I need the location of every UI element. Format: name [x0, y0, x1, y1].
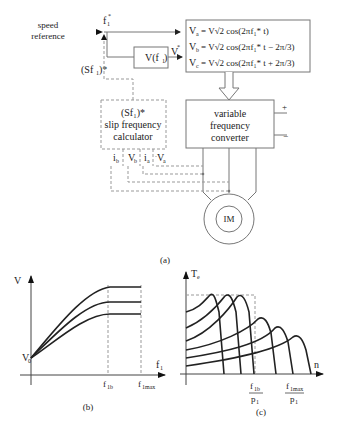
caption-b: (b) — [83, 402, 94, 412]
svg-text:= V√2 cos(2πf₁* t + 2π/3): = V√2 cos(2πf₁* t + 2π/3) — [201, 58, 294, 68]
svg-text:*: * — [177, 44, 180, 50]
svg-text:b: b — [134, 158, 137, 164]
dc-minus-label: − — [283, 131, 288, 141]
svg-text:1b: 1b — [254, 386, 260, 392]
b-y-label: V — [14, 275, 22, 286]
x-axis-arrow-icon — [316, 371, 324, 377]
b-curve-middle — [31, 302, 141, 358]
svg-text:calculator: calculator — [113, 131, 153, 142]
svg-text:= V√2 cos(2πf₁* t): = V√2 cos(2πf₁* t) — [201, 26, 269, 36]
svg-text:1b: 1b — [107, 384, 113, 390]
feedback-arrow-icon — [101, 34, 107, 40]
hollow-down-arrow-icon — [219, 72, 239, 100]
x-axis-arrow-icon — [158, 372, 166, 378]
svg-text:a: a — [196, 31, 199, 37]
equation-a: V a = V√2 cos(2πf₁* t) — [189, 25, 269, 37]
chart-b-voltage-frequency: V V 0 f 1 f 1b f 1max (b) — [14, 275, 166, 412]
svg-text:0: 0 — [28, 358, 31, 364]
equation-c: V c = V√2 cos(2πf₁* t + 2π/3) — [189, 57, 294, 69]
caption-a: (a) — [160, 255, 170, 265]
chart-c-torque-speed: T e n f 1b p 1 f 1max p 1 (c) — [180, 268, 324, 417]
svg-text:b: b — [196, 47, 199, 53]
svg-text:1: 1 — [107, 21, 110, 27]
svg-text:a: a — [147, 158, 150, 164]
c-tick-f1b-num: f — [250, 381, 253, 391]
svg-text:variable: variable — [214, 108, 247, 119]
b-tick-f1b: f — [103, 379, 106, 389]
motor-label: IM — [224, 214, 235, 224]
svg-text:e: e — [197, 274, 200, 280]
c-x-label: n — [314, 359, 319, 370]
y-axis-arrow-icon — [183, 271, 189, 279]
induction-motor-vf-control-figure: speed reference f 1 * V(f 1 ) V * V a = … — [0, 0, 339, 435]
svg-text:= V√2 cos(2πf₁* t − 2π/3): = V√2 cos(2πf₁* t − 2π/3) — [201, 42, 294, 52]
svg-text:): ) — [164, 52, 167, 64]
svg-text:1: 1 — [160, 365, 163, 371]
v-f1-label: V(f — [145, 52, 160, 64]
slip-feedback-label: (Sf — [81, 64, 94, 76]
svg-text:converter: converter — [211, 132, 249, 143]
svg-text:1: 1 — [256, 399, 259, 405]
equation-b: V b = V√2 cos(2πf₁* t − 2π/3) — [189, 41, 294, 53]
svg-text:)*: )* — [99, 64, 107, 76]
b-curve-upper — [31, 287, 141, 358]
svg-text:(Sf₁)*: (Sf₁)* — [121, 107, 145, 119]
svg-text:1max: 1max — [142, 384, 155, 390]
block-diagram-a: speed reference f 1 * V(f 1 ) V * V a = … — [31, 13, 310, 265]
b-curve-lower — [31, 314, 141, 358]
calculator-inputs: i b V b i a V a — [113, 152, 166, 164]
svg-text:c: c — [196, 63, 199, 69]
b-tick-f1max: f — [138, 379, 141, 389]
c-curve-4 — [186, 318, 276, 374]
speed-reference-label-2: reference — [31, 31, 64, 41]
c-curve-1 — [186, 294, 224, 374]
speed-reference-label-1: speed — [38, 20, 59, 30]
svg-text:slip frequency: slip frequency — [105, 119, 162, 130]
svg-text:*: * — [108, 13, 111, 19]
y-axis-arrow-icon — [28, 275, 34, 283]
dc-plus-label: + — [282, 102, 287, 112]
svg-text:1max: 1max — [290, 386, 303, 392]
svg-text:1: 1 — [295, 399, 298, 405]
svg-text:b: b — [116, 158, 119, 164]
speed-reference-arrow-icon — [96, 29, 103, 35]
svg-text:a: a — [163, 158, 166, 164]
caption-c: (c) — [256, 407, 266, 417]
svg-text:frequency: frequency — [210, 120, 250, 131]
c-tick-f1max-num: f — [286, 381, 289, 391]
